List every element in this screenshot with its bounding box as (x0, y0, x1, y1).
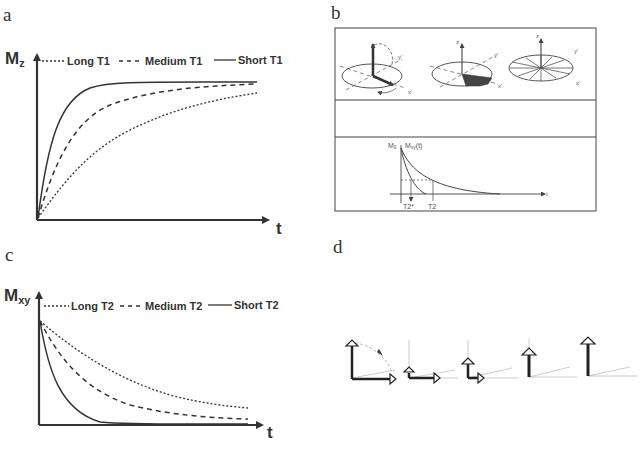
disc-flip: y' x' (340, 44, 412, 95)
svg-text:y': y' (398, 54, 402, 60)
y-axis-label: Mz (5, 49, 25, 69)
y-axis-label: Mxy (4, 286, 31, 306)
legend-long-t1: Long T1 (67, 55, 110, 67)
curve-t2 (401, 148, 500, 194)
svg-text:x': x' (498, 83, 502, 89)
svg-text:x': x' (576, 80, 580, 86)
panel-d-diagram (346, 337, 637, 384)
vector-step-5 (581, 337, 637, 376)
curve-medium-t1 (38, 84, 257, 218)
x-axis-label: t (276, 219, 282, 238)
legend-short-t2: Short T2 (234, 299, 279, 311)
legend-short-t1: Short T1 (238, 54, 283, 66)
curve-short-t1 (38, 82, 257, 218)
curve-long-t1 (38, 93, 257, 218)
t2star-label: T2* (403, 203, 414, 210)
x-axis-label: t (267, 423, 273, 442)
legend: Long T1 Medium T1 Short T1 (42, 54, 283, 67)
panel-a-chart: Mz t Long T1 Medium T1 Short T1 (5, 49, 283, 238)
svg-text:x': x' (408, 89, 412, 95)
svg-text:z: z (456, 39, 459, 45)
fid-plot: M0 Mxy(t) T2* T2 t (388, 142, 548, 210)
curve-long-t2 (40, 321, 248, 408)
svg-text:y': y' (574, 48, 578, 54)
svg-text:Mxy(t): Mxy(t) (405, 142, 422, 150)
panel-b-diagram: y' x' z y' x' z (335, 28, 596, 211)
curve-short-t2 (40, 321, 248, 424)
vector-step-1 (346, 340, 396, 384)
legend-long-t2: Long T2 (71, 300, 114, 312)
vector-step-4 (522, 338, 577, 377)
svg-text:t: t (546, 191, 548, 197)
disc-dephased: z y' x' (509, 33, 580, 86)
disc-dephasing: z y' x' (430, 39, 502, 89)
panel-c-chart: Mxy t Long T2 Medium T2 Short T2 (4, 286, 279, 442)
legend-medium-t2: Medium T2 (145, 300, 202, 312)
figure-canvas: Mz t Long T1 Medium T1 Short T1 (0, 0, 640, 449)
legend: Long T2 Medium T2 Short T2 (44, 299, 279, 312)
svg-text:z: z (536, 33, 539, 39)
vector-step-3 (462, 340, 519, 383)
t2-label: T2 (428, 203, 436, 210)
legend-medium-t1: Medium T1 (145, 55, 202, 67)
vector-step-2 (404, 340, 458, 383)
svg-text:M0: M0 (388, 142, 397, 150)
svg-text:y': y' (494, 52, 498, 58)
